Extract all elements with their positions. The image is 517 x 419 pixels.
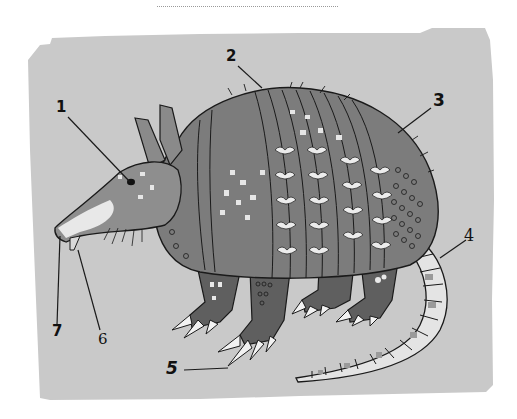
label-4: 4 bbox=[464, 228, 474, 244]
label-2: 2 bbox=[226, 49, 236, 64]
label-6: 6 bbox=[98, 332, 108, 347]
armadillo-diagram: 1 2 3 4 5 6 7 bbox=[0, 0, 517, 419]
label-5: 5 bbox=[166, 360, 178, 377]
label-7: 7 bbox=[52, 324, 62, 339]
armadillo-illustration bbox=[0, 0, 517, 419]
label-3: 3 bbox=[433, 92, 445, 109]
label-1: 1 bbox=[56, 100, 66, 115]
